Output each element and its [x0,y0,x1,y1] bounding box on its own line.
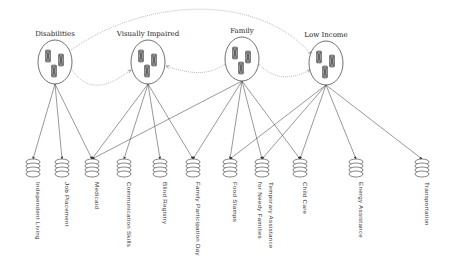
group-ellipse [131,40,165,84]
person-icon [330,55,335,67]
service-label-line2: for Needy Families [257,182,264,239]
service-node-job_placement[interactable]: Job Placement [55,159,71,227]
edge-visually_impaired-to-family_participation_day [148,84,193,159]
edge-disabilities-to-medicaid [55,84,92,159]
service-label: Energy Assistance [358,182,365,238]
group-label: Low Income [304,31,347,39]
service-label: Temporary Assistance [268,182,275,249]
edge-low_income-to-transportation [326,85,422,159]
service-label: Job Placement [64,182,71,227]
edge-low_income-to-temporary_assistance [262,85,326,159]
group-ellipse [309,41,343,85]
service-label: Family Participation Day [195,182,202,257]
edges [33,81,422,159]
person-icon [145,65,150,77]
person-icon [152,54,157,66]
group-link-disabilities-to-visually_impaired [72,70,131,85]
service-node-medicaid[interactable]: Medicaid [85,159,101,209]
service-label: Medicaid [94,182,101,209]
group-node-low_income[interactable]: Low Income [304,31,347,85]
group-node-family[interactable]: Family [225,27,259,81]
service-label: Independent Living [35,182,42,240]
service-label: Child Care [302,182,309,214]
group-label: Visually Impaired [116,30,180,38]
person-icon [317,51,322,63]
service-label: Food Stamps [232,182,239,222]
group-links [71,9,311,85]
person-icon [139,50,144,62]
service-node-temporary_assistance[interactable]: Temporary Assistancefor Needy Families [255,159,275,249]
edge-visually_impaired-to-communication_skills [124,84,148,159]
edge-low_income-to-child_care [300,85,326,159]
group-ellipse [38,40,72,84]
service-node-transportation[interactable]: Transportation [415,159,431,226]
database-icon [415,159,429,177]
service-label: Communication Skills [126,182,133,247]
group-node-disabilities[interactable]: Disabilities [35,30,75,84]
person-icon [59,54,64,66]
person-icon [239,62,244,74]
service-node-family_participation_day[interactable]: Family Participation Day [186,159,202,257]
service-node-energy_assistance[interactable]: Energy Assistance [349,159,365,238]
group-link-family-to-visually_impaired [166,64,225,73]
database-icon [153,159,167,177]
service-node-independent_living[interactable]: Independent Living [26,159,42,240]
edge-low_income-to-food_stamps [230,85,326,159]
edge-visually_impaired-to-medicaid [92,84,148,159]
service-label: Blind Registry [162,182,169,225]
service-network-diagram: DisabilitiesVisually ImpairedFamilyLow I… [0,0,452,280]
edge-low_income-to-energy_assistance [326,85,356,159]
database-icon [85,159,99,177]
group-label: Disabilities [35,30,75,38]
group-ellipse [225,37,259,81]
edge-family-to-child_care [242,81,300,159]
group-link-disabilities-to-low_income [71,9,311,54]
group-label: Family [230,27,254,35]
group-link-family-to-low_income [259,64,310,77]
person-icon [52,65,57,77]
database-icon [55,159,69,177]
database-icon [186,159,200,177]
service-node-food_stamps[interactable]: Food Stamps [223,159,239,222]
person-icon [246,51,251,63]
service-node-child_care[interactable]: Child Care [293,159,309,214]
database-icon [349,159,363,177]
person-icon [46,50,51,62]
database-icon [255,159,269,177]
service-label: Transportation [424,182,431,226]
edge-disabilities-to-job_placement [55,84,62,159]
person-icon [323,66,328,78]
service-node-communication_skills[interactable]: Communication Skills [117,159,133,247]
edge-disabilities-to-independent_living [33,84,55,159]
group-node-visually_impaired[interactable]: Visually Impaired [116,30,180,84]
database-icon [117,159,131,177]
edge-family-to-medicaid [92,81,242,159]
database-icon [223,159,237,177]
service-node-blind_registry[interactable]: Blind Registry [153,159,169,225]
services: Independent LivingJob PlacementMedicaidC… [26,159,431,257]
edge-family-to-food_stamps [230,81,242,159]
groups: DisabilitiesVisually ImpairedFamilyLow I… [35,27,347,85]
database-icon [26,159,40,177]
database-icon [293,159,307,177]
edge-family-to-family_participation_day [193,81,242,159]
edge-visually_impaired-to-blind_registry [148,84,160,159]
person-icon [233,47,238,59]
